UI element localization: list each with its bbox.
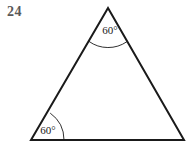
triangle-diagram: 60° 60°: [0, 0, 188, 147]
apex-angle-label: 60°: [102, 24, 117, 36]
apex-angle-arc: [89, 41, 127, 47]
bottom-left-angle-label: 60°: [40, 124, 55, 136]
geometry-figure: 24 60° 60°: [0, 0, 188, 147]
